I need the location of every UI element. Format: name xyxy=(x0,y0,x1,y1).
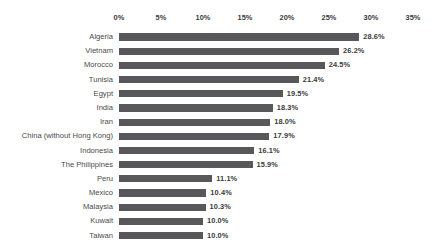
bar xyxy=(119,189,206,196)
bar-value-label: 11.1% xyxy=(216,172,237,186)
category-label: India xyxy=(97,101,113,115)
bar-value-label: 28.6% xyxy=(363,30,384,44)
x-axis-tick: 10% xyxy=(195,11,210,24)
x-axis-tick: 0% xyxy=(114,11,125,24)
bar-value-label: 10.0% xyxy=(207,214,228,228)
bar xyxy=(119,204,206,211)
bar-value-label: 18.0% xyxy=(274,115,295,129)
category-label: Morocco xyxy=(84,58,113,72)
category-label: Indonesia xyxy=(80,144,113,158)
category-label: Peru xyxy=(97,172,113,186)
bar-row: The Philippines15.9% xyxy=(0,158,433,172)
bar-row: Iran18.0% xyxy=(0,115,433,129)
bar-value-label: 19.5% xyxy=(287,87,308,101)
bar-rows: Algeria28.6%Vietnam26.2%Morocco24.5%Tuni… xyxy=(0,30,433,243)
bar xyxy=(119,232,203,239)
x-axis: 0%5%10%15%20%25%30%35% xyxy=(0,11,433,24)
bar-row: Algeria28.6% xyxy=(0,30,433,44)
x-axis-tick: 20% xyxy=(279,11,294,24)
bar-chart: 0%5%10%15%20%25%30%35% Algeria28.6%Vietn… xyxy=(0,0,433,245)
bar xyxy=(119,48,339,55)
bar xyxy=(119,76,299,83)
bar-value-label: 10.3% xyxy=(210,200,231,214)
bar-value-label: 21.4% xyxy=(303,73,324,87)
bar-value-label: 10.4% xyxy=(210,186,231,200)
category-label: China (without Hong Kong) xyxy=(22,129,113,143)
bar-row: Egypt19.5% xyxy=(0,87,433,101)
bar xyxy=(119,175,212,182)
category-label: Tunisia xyxy=(89,73,113,87)
bar xyxy=(119,119,270,126)
bar-row: Mexico10.4% xyxy=(0,186,433,200)
bar xyxy=(119,161,253,168)
bar-row: Tunisia21.4% xyxy=(0,73,433,87)
bar-value-label: 10.0% xyxy=(207,229,228,243)
category-label: Iran xyxy=(100,115,113,129)
category-label: Kuwait xyxy=(90,214,113,228)
bar-value-label: 26.2% xyxy=(343,44,364,58)
bar xyxy=(119,90,283,97)
category-label: Egypt xyxy=(94,87,113,101)
x-axis-tick: 5% xyxy=(156,11,167,24)
bar xyxy=(119,133,269,140)
category-label: The Philippines xyxy=(61,158,113,172)
category-label: Taiwan xyxy=(89,229,113,243)
bar xyxy=(119,104,273,111)
bar-row: Peru11.1% xyxy=(0,172,433,186)
bar-row: Taiwan10.0% xyxy=(0,229,433,243)
bar xyxy=(119,33,359,40)
bar-row: Morocco24.5% xyxy=(0,58,433,72)
bar-value-label: 16.1% xyxy=(258,144,279,158)
x-axis-tick: 25% xyxy=(321,11,336,24)
x-axis-tick: 15% xyxy=(237,11,252,24)
x-axis-tick: 35% xyxy=(405,11,420,24)
x-axis-tick: 30% xyxy=(363,11,378,24)
bar xyxy=(119,147,254,154)
bar-row: India18.3% xyxy=(0,101,433,115)
bar-value-label: 24.5% xyxy=(329,58,350,72)
bar-value-label: 15.9% xyxy=(257,158,278,172)
bar-row: Malaysia10.3% xyxy=(0,200,433,214)
bar-row: Kuwait10.0% xyxy=(0,214,433,228)
bar-row: Vietnam26.2% xyxy=(0,44,433,58)
category-label: Vietnam xyxy=(85,44,113,58)
bar xyxy=(119,62,325,69)
bar-row: China (without Hong Kong)17.9% xyxy=(0,129,433,143)
category-label: Algeria xyxy=(89,30,113,44)
bar-row: Indonesia16.1% xyxy=(0,144,433,158)
bar-value-label: 17.9% xyxy=(273,129,294,143)
bar xyxy=(119,218,203,225)
bar-value-label: 18.3% xyxy=(277,101,298,115)
category-label: Mexico xyxy=(89,186,113,200)
category-label: Malaysia xyxy=(83,200,113,214)
